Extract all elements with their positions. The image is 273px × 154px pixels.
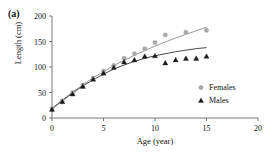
x-axis-ticks: 05101520: [50, 118, 262, 133]
data-point-circle: [204, 28, 208, 32]
data-point-triangle: [173, 57, 178, 62]
data-point-triangle: [142, 54, 147, 59]
fitted-curve: [52, 48, 207, 109]
data-point-triangle: [198, 98, 203, 103]
data-points: [49, 28, 209, 111]
y-tick-label: 200: [34, 12, 46, 21]
fitted-curves: [52, 27, 207, 109]
x-tick-label: 20: [254, 124, 262, 133]
data-point-circle: [163, 33, 167, 37]
y-tick-label: 50: [38, 89, 46, 98]
y-axis-ticks: 050100150200: [34, 12, 52, 123]
legend-label: Females: [209, 83, 236, 92]
data-point-circle: [199, 85, 203, 89]
legend-label: Males: [209, 96, 229, 105]
data-point-circle: [153, 40, 157, 44]
chart-plot-area: 050100150200 05101520 FemalesMales: [0, 0, 273, 154]
data-point-triangle: [163, 60, 168, 65]
data-point-triangle: [132, 57, 137, 62]
y-tick-label: 150: [34, 38, 46, 47]
data-point-triangle: [204, 54, 209, 59]
data-point-triangle: [194, 56, 199, 61]
data-point-circle: [184, 30, 188, 34]
figure-panel-a: (a) Length (cm) Age (year) 050100150200 …: [0, 0, 273, 154]
y-tick-label: 0: [42, 114, 46, 123]
data-point-circle: [132, 52, 136, 56]
data-point-triangle: [183, 56, 188, 61]
x-tick-label: 5: [102, 124, 106, 133]
x-tick-label: 0: [50, 124, 54, 133]
data-point-circle: [142, 46, 146, 50]
x-tick-label: 15: [203, 124, 211, 133]
y-tick-label: 100: [34, 63, 46, 72]
x-tick-label: 10: [151, 124, 159, 133]
legend: FemalesMales: [198, 83, 235, 105]
